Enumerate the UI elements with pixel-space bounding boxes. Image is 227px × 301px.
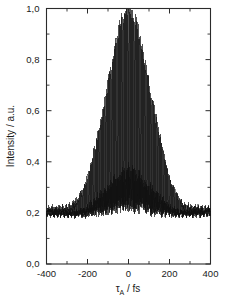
y-tick-label: 0,8 [26,54,39,65]
x-tick-label: 200 [162,268,178,279]
y-tick-label: 0,6 [26,105,39,116]
y-tick-label: 0,0 [26,258,39,269]
y-tick-label: 1,0 [26,3,39,14]
figure-root: -400-20002004000,00,20,40,60,81,0 Intens… [0,0,227,301]
autocorrelation-chart: -400-20002004000,00,20,40,60,81,0 Intens… [0,0,227,301]
autocorrelation-trace [47,9,211,220]
y-axis-label: Intensity / a.u. [5,105,16,167]
x-axis-label-units: / fs [124,283,140,294]
y-tick-label: 0,2 [26,207,39,218]
x-axis-label: τA / fs [116,283,141,296]
y-tick-label: 0,4 [26,156,39,167]
x-tick-label: 400 [203,268,219,279]
x-axis-label-text: τA / fs [116,283,141,296]
x-tick-label: -200 [78,268,97,279]
chart-svg: -400-20002004000,00,20,40,60,81,0 Intens… [0,0,227,301]
y-axis-label-text: Intensity / a.u. [5,105,16,167]
data-trace [47,9,211,220]
x-tick-label: 0 [126,268,131,279]
x-tick-label: -400 [37,268,56,279]
